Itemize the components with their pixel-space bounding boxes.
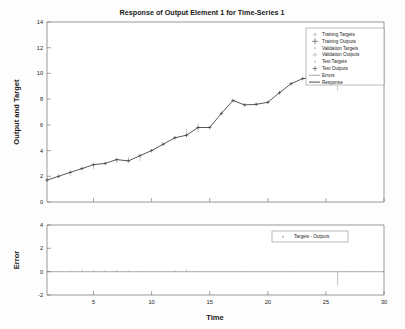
xtick-30: 30	[381, 299, 387, 305]
ytick-10: 10	[37, 70, 43, 76]
xtick-25: 25	[323, 299, 329, 305]
legend-label-errors: Errors	[322, 73, 335, 78]
response-legend[interactable]: Training Targets Training Outputs Valida…	[306, 28, 384, 85]
err-ytick--2: -2	[38, 292, 43, 298]
ytick-12: 12	[37, 45, 43, 51]
x-axis-label: Time	[206, 313, 224, 322]
legend-label-validation-outputs: Validation Outputs	[322, 52, 360, 57]
ytick-0: 0	[40, 199, 43, 205]
xtick-15: 15	[207, 299, 213, 305]
xtick-20: 20	[265, 299, 271, 305]
response-y-axis-label: Output and Target	[12, 79, 21, 145]
legend-label-response: Response	[322, 80, 343, 85]
legend-label-targets-minus-outputs: Targets - Outputs	[294, 234, 330, 239]
response-chart-figure: Response of Output Element 1 for Time-Se…	[0, 0, 405, 329]
legend-label-validation-targets: Validation Targets	[322, 46, 359, 51]
response-subplot: 0 2 4 6 8 10 12 14	[12, 19, 384, 205]
legend-label-training-outputs: Training Outputs	[322, 39, 356, 44]
ytick-8: 8	[40, 96, 43, 102]
ytick-6: 6	[40, 122, 43, 128]
err-ytick-0: 0	[40, 269, 43, 275]
legend-label-test-outputs: Test Outputs	[322, 66, 348, 71]
err-ytick-2: 2	[40, 245, 43, 251]
chart-title: Response of Output Element 1 for Time-Se…	[120, 8, 285, 17]
ytick-4: 4	[40, 148, 43, 154]
legend-label-test-targets: Test Targets	[322, 59, 347, 64]
ytick-2: 2	[40, 173, 43, 179]
figure-window: Response of Output Element 1 for Time-Se…	[0, 0, 405, 329]
error-legend[interactable]: Targets - Outputs	[272, 231, 348, 242]
xtick-5: 5	[92, 299, 95, 305]
error-y-axis-label: Error	[12, 251, 21, 270]
xtick-10: 10	[148, 299, 154, 305]
ytick-14: 14	[37, 19, 43, 25]
err-ytick-4: 4	[40, 222, 43, 228]
legend-label-training-targets: Training Targets	[322, 32, 355, 37]
